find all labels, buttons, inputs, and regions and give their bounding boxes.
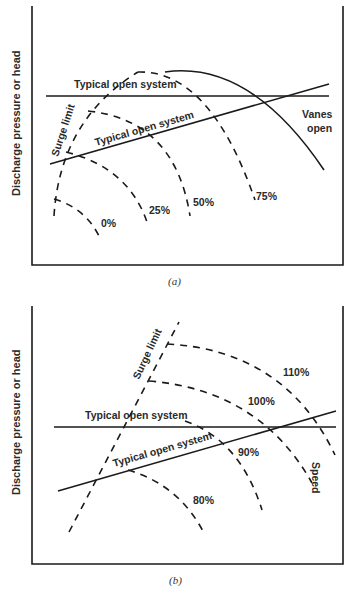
curve-label-110: 110% (283, 366, 310, 378)
y-axis-label-a: Discharge pressure or head (10, 50, 22, 196)
curve-label-75: 75% (256, 190, 278, 202)
surge-label-b: Surge limit (130, 326, 164, 381)
system-line-sloped-b (58, 411, 336, 491)
curve-label-50: 50% (193, 196, 215, 208)
curve-label-0: 0% (101, 217, 117, 229)
axes-frame-a (32, 6, 343, 265)
system-label-sloped-b: Typical open system (111, 429, 213, 469)
curve-0-a (54, 199, 99, 236)
caption-a: (a) (168, 275, 181, 288)
curve-25-a (66, 152, 148, 225)
curve-50-a (88, 111, 190, 216)
diagram-b: Discharge pressure or head Typical open … (10, 306, 343, 587)
vanes-label-line2: open (307, 122, 332, 134)
curve-75-a (138, 72, 255, 200)
curve-label-100: 100% (248, 395, 276, 407)
system-label-sloped-a: Typical open system (93, 108, 195, 148)
curve-100-b (149, 381, 312, 483)
curve-label-90: 90% (238, 446, 260, 458)
y-axis-label-b: Discharge pressure or head (10, 349, 22, 495)
diagram-a: Discharge pressure or head Typical open … (10, 6, 343, 288)
vanes-label-line1: Vanes (302, 108, 333, 120)
speed-label: Speed (310, 462, 322, 494)
surge-label-a: Surge limit (48, 102, 76, 158)
curve-label-80: 80% (193, 494, 215, 506)
curve-label-25: 25% (149, 204, 171, 216)
compressor-curves-figure: Discharge pressure or head Typical open … (0, 0, 350, 597)
caption-b: (b) (169, 574, 182, 587)
system-label-horizontal-b: Typical open system (85, 409, 188, 421)
